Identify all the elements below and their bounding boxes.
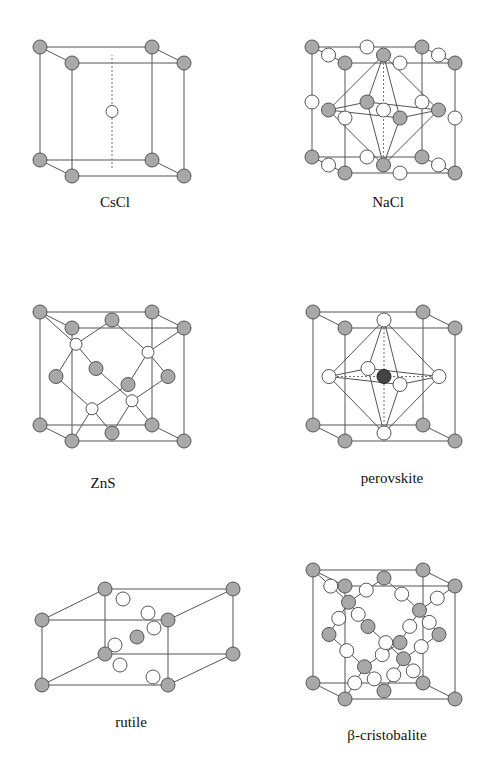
octahedron-edge (368, 320, 384, 369)
silicon-atom (342, 595, 356, 609)
corner-atom (226, 582, 240, 596)
open-atom (322, 48, 336, 62)
octahedron-edge (384, 385, 400, 434)
lattice-atom (145, 305, 159, 319)
oxygen-atom (322, 370, 336, 384)
cell-edge (168, 654, 233, 685)
lattice-atom (105, 313, 119, 327)
label-nacl: NaCl (372, 194, 404, 210)
corner-atom (177, 169, 191, 183)
corner-atom (415, 150, 429, 164)
label-perovskite: perovskite (361, 470, 424, 486)
oxygen-atom (395, 587, 409, 601)
corner-atom (226, 647, 240, 661)
structure-rutile (35, 582, 240, 692)
corner-atom (98, 647, 112, 661)
body-center-atom (377, 370, 391, 384)
open-atom (432, 48, 446, 62)
lattice-atom (89, 362, 103, 376)
corner-atom (338, 434, 352, 448)
corner-atom (338, 56, 352, 70)
body-center-atom (130, 630, 144, 644)
lattice-atom (49, 370, 63, 384)
structure-cristobalite (306, 563, 462, 706)
face-center-atom (322, 103, 336, 117)
lattice-atom (65, 321, 79, 335)
label-rutile: rutile (115, 714, 147, 730)
silicon-atom (322, 628, 336, 642)
oxygen-atom (351, 607, 365, 621)
corner-atom (338, 166, 352, 180)
label-cscl: CsCl (100, 194, 130, 210)
oxygen-atom (361, 362, 375, 376)
silicon-atom (448, 692, 462, 706)
corner-atom (338, 321, 352, 335)
corner-atom (33, 153, 47, 167)
oxygen-atom (359, 583, 373, 597)
silicon-atom (432, 628, 446, 642)
corner-atom (306, 418, 320, 432)
corner-atom (416, 305, 430, 319)
open-atom (322, 158, 336, 172)
corner-atom (306, 305, 320, 319)
face-center-atom (432, 103, 446, 117)
corner-atom (33, 40, 47, 54)
oxygen-atom (430, 591, 444, 605)
oxygen-atom (146, 670, 160, 684)
lattice-atom (177, 321, 191, 335)
silicon-atom (397, 652, 411, 666)
structure-cscl (33, 40, 191, 183)
corner-atom (416, 418, 430, 432)
silicon-atom (393, 636, 407, 650)
corner-atom (448, 166, 462, 180)
silicon-atom (377, 571, 391, 585)
open-atom (360, 40, 374, 54)
lattice-atom (145, 418, 159, 432)
oxygen-atom (324, 579, 338, 593)
lattice-atom (105, 426, 119, 440)
tetrahedral-atom (126, 395, 138, 407)
lattice-atom (33, 418, 47, 432)
oxygen-atom (403, 619, 417, 633)
lattice-atom (121, 378, 135, 392)
silicon-atom (306, 563, 320, 577)
oxygen-atom (379, 636, 393, 650)
oxygen-atom (377, 313, 391, 327)
tetrahedral-atom (142, 346, 154, 358)
oxygen-atom (414, 640, 428, 654)
structure-nacl (305, 40, 462, 180)
corner-atom (305, 150, 319, 164)
corner-atom (65, 56, 79, 70)
silicon-atom (416, 676, 430, 690)
corner-atom (448, 56, 462, 70)
corner-atom (145, 40, 159, 54)
label-cristobalite: β-cristobalite (347, 727, 427, 743)
crystal-structures-figure: CsCl NaCl ZnS perovskite rutile β-cristo… (0, 0, 497, 775)
silicon-atom (338, 692, 352, 706)
oxygen-atom (348, 676, 362, 690)
structure-zns (33, 305, 191, 448)
open-atom (393, 56, 407, 70)
open-atom (393, 166, 407, 180)
face-center-atom (360, 95, 374, 109)
tetrahedral-atom (70, 338, 82, 350)
tetrahedral-atom (86, 403, 98, 415)
lattice-atom (65, 434, 79, 448)
cell-edge (42, 654, 105, 685)
corner-atom (448, 321, 462, 335)
silicon-atom (416, 563, 430, 577)
corner-atom (448, 434, 462, 448)
label-zns: ZnS (90, 475, 115, 491)
lattice-atom (33, 305, 47, 319)
oxygen-atom (377, 426, 391, 440)
open-atom (338, 111, 352, 125)
open-atom (432, 158, 446, 172)
silicon-atom (361, 620, 375, 634)
silicon-atom (413, 603, 427, 617)
oxygen-atom (332, 611, 346, 625)
open-atom (415, 95, 429, 109)
open-atom (360, 150, 374, 164)
structure-perovskite (306, 305, 462, 448)
oxygen-atom (147, 621, 161, 635)
open-atom (448, 111, 462, 125)
